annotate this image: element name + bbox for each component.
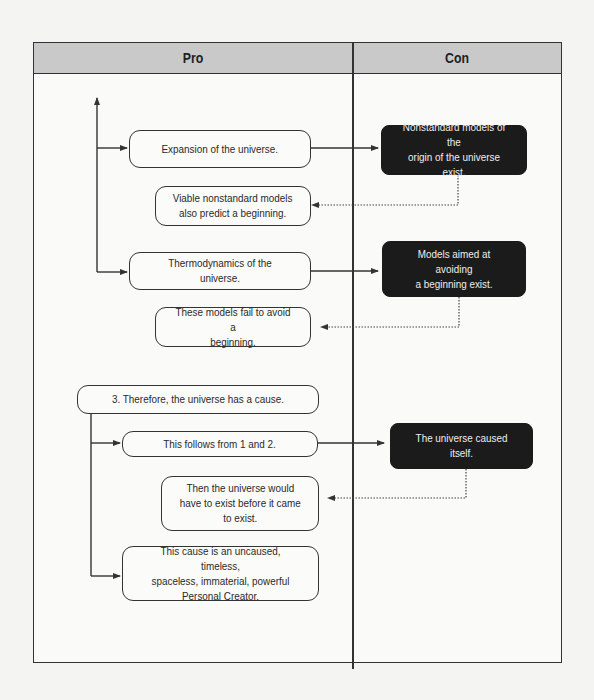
box-follows-from-1-and-2: This follows from 1 and 2. bbox=[122, 431, 318, 457]
box-viable-nonstandard-models: Viable nonstandard models also predict a… bbox=[155, 186, 311, 226]
box-exist-before: Then the universe would have to exist be… bbox=[161, 476, 319, 531]
box-expansion-of-universe: Expansion of the universe. bbox=[129, 130, 311, 168]
box-text: Expansion of the universe. bbox=[162, 142, 279, 157]
box-text: Viable nonstandard models also predict a… bbox=[173, 191, 293, 221]
box-text: Models aimed at avoiding a beginning exi… bbox=[398, 247, 510, 292]
box-thermodynamics: Thermodynamics of the universe. bbox=[129, 252, 311, 290]
column-divider bbox=[352, 43, 354, 669]
box-models-avoiding-beginning: Models aimed at avoiding a beginning exi… bbox=[382, 241, 526, 297]
box-therefore-cause: 3. Therefore, the universe has a cause. bbox=[77, 385, 319, 414]
box-text: This follows from 1 and 2. bbox=[164, 437, 277, 452]
box-models-fail-to-avoid: These models fail to avoid a beginning. bbox=[155, 307, 311, 347]
box-personal-creator: This cause is an uncaused, timeless, spa… bbox=[122, 546, 319, 601]
box-text: Thermodynamics of the universe. bbox=[148, 256, 292, 286]
column-header-con: Con bbox=[372, 43, 543, 73]
box-text: Nonstandard models of the origin of the … bbox=[397, 120, 511, 180]
column-header-pro: Pro bbox=[63, 43, 324, 73]
box-text: These models fail to avoid a beginning. bbox=[172, 305, 294, 350]
box-universe-caused-itself: The universe caused itself. bbox=[390, 423, 533, 469]
box-nonstandard-models-exist: Nonstandard models of the origin of the … bbox=[381, 125, 527, 175]
box-text: Then the universe would have to exist be… bbox=[180, 481, 301, 526]
box-text: 3. Therefore, the universe has a cause. bbox=[112, 392, 284, 407]
table-header: Pro Con bbox=[34, 43, 561, 74]
box-text: The universe caused itself. bbox=[406, 431, 517, 461]
box-text: This cause is an uncaused, timeless, spa… bbox=[142, 544, 299, 604]
